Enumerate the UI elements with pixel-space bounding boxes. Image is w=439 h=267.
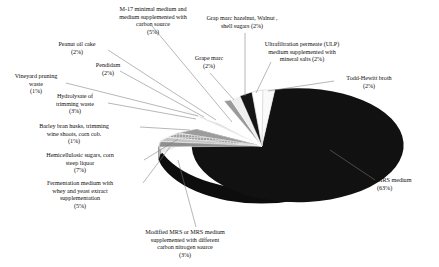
leader-ulp bbox=[256, 62, 271, 93]
label-todd-hewitt: Todd-Hewitt broth (2%) bbox=[330, 74, 408, 89]
leader-grape-marc bbox=[210, 73, 234, 100]
label-barley-bran-husks: Barley bran husks, trimming wine shoots,… bbox=[10, 122, 138, 145]
label-pendidam: Pendidam (2%) bbox=[80, 61, 136, 76]
label-hydrolysate: Hydrolysate of trimming waste (3%) bbox=[40, 92, 110, 115]
label-mrs-medium: MRS medium (63%) bbox=[377, 176, 437, 191]
label-fermentation: Fermentation medium with whey and yeast … bbox=[18, 179, 142, 209]
leader-pendidam bbox=[120, 71, 204, 117]
label-grap-marc-hazelnut: Grap marc hazelnut, Walnut , shell sugar… bbox=[180, 14, 304, 29]
leader-barley bbox=[140, 127, 190, 130]
label-modified-mrs: Modified MRS or MRS medium supplemented … bbox=[112, 228, 258, 258]
leader-modified-mrs bbox=[178, 160, 196, 227]
label-hemicellulosic: Hemicellulosic sugars, corn steep liquor… bbox=[18, 151, 142, 174]
label-peanut-oil-cake: Peanut oil cake (2%) bbox=[38, 40, 116, 55]
pie-chart-figure: M-17 minimal medium and medium supplemen… bbox=[0, 0, 439, 267]
label-ulp: Ultrafiltration permeate (ULP) medium su… bbox=[238, 40, 366, 63]
label-grape-marc: Grape marc (2%) bbox=[180, 54, 238, 69]
